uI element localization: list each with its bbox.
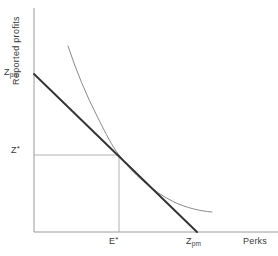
x-tick-z-pm-subscript: pm xyxy=(192,240,201,247)
y-tick-z-pm-subscript: pm xyxy=(10,71,19,78)
y-tick-z-pm-base: Z xyxy=(4,67,10,77)
chart-figure: Reported profits Zpm Z* E* Zpm Perks xyxy=(0,0,278,256)
y-tick-label-z-pm: Zpm xyxy=(4,68,19,77)
y-axis-title: Reported profits xyxy=(12,5,21,97)
y-tick-label-z-star: Z* xyxy=(11,146,20,155)
x-tick-z-pm-base: Z xyxy=(186,236,192,246)
y-tick-z-star-base: Z xyxy=(11,145,17,155)
x-tick-label-e-star: E* xyxy=(109,237,119,246)
y-tick-z-star-superscript: * xyxy=(17,144,20,153)
budget-constraint-line xyxy=(34,74,197,232)
x-axis-title: Perks xyxy=(243,237,267,246)
x-tick-label-z-pm: Zpm xyxy=(186,237,201,246)
plot-canvas xyxy=(0,0,278,256)
x-tick-e-star-superscript: * xyxy=(115,235,118,244)
